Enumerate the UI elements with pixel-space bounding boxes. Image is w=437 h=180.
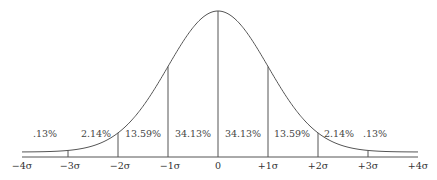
pct-label: 34.13% [175, 128, 211, 139]
axis-label: +3σ [358, 160, 379, 171]
axis-label: −4σ [12, 160, 33, 171]
pct-label: 13.59% [274, 128, 310, 139]
pct-label: 2.14% [81, 128, 111, 139]
pct-label: 13.59% [125, 128, 161, 139]
axis-label: 0 [215, 160, 221, 171]
pct-label: 34.13% [225, 128, 261, 139]
normal-distribution-diagram: .13% 2.14% 13.59% 34.13% 34.13% 13.59% 2… [0, 0, 437, 180]
pct-label: 2.14% [324, 128, 354, 139]
axis-label: +4σ [408, 160, 429, 171]
axis-label: +2σ [308, 160, 329, 171]
axis-label: −1σ [160, 160, 181, 171]
pct-label: .13% [33, 128, 57, 139]
axis-label: +1σ [258, 160, 279, 171]
pct-label: .13% [363, 128, 387, 139]
axis-label: −3σ [60, 160, 81, 171]
axis-label: −2σ [110, 160, 131, 171]
